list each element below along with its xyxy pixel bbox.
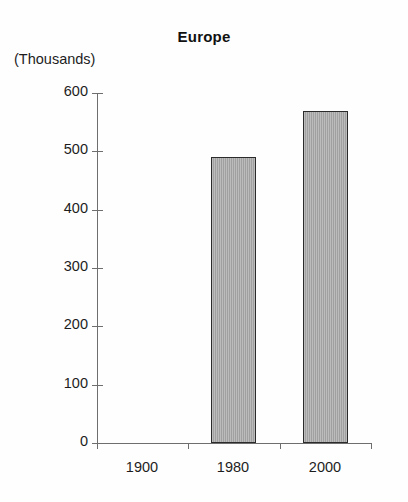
bar-2000[interactable] — [303, 111, 348, 444]
x-category-label-2000: 2000 — [279, 459, 371, 475]
y-tick-label-100: 100 — [64, 375, 88, 391]
y-tick-500: 500 — [97, 151, 98, 152]
bar-1980[interactable] — [211, 157, 256, 443]
chart-title: Europe — [0, 28, 408, 45]
y-tick-label-0: 0 — [80, 433, 88, 449]
y-tick-300: 300 — [97, 268, 98, 269]
y-tick-label-200: 200 — [64, 316, 88, 332]
y-tick-label-500: 500 — [64, 141, 88, 157]
x-category-label-1900: 1900 — [96, 459, 188, 475]
x-category-label-1980: 1980 — [187, 459, 279, 475]
bar-chart: Europe (Thousands) 600 500 400 300 200 1… — [0, 0, 408, 502]
y-tick-400: 400 — [97, 210, 98, 211]
x-tick-2 — [280, 443, 281, 449]
y-tick-label-400: 400 — [64, 200, 88, 216]
x-tick-end — [371, 443, 372, 449]
x-tick-start — [97, 443, 98, 449]
y-tick-label-300: 300 — [64, 258, 88, 274]
plot-area: 600 500 400 300 200 100 0 — [97, 93, 372, 443]
y-tick-200: 200 — [97, 326, 98, 327]
y-axis-unit-label: (Thousands) — [14, 51, 95, 67]
y-tick-label-600: 600 — [64, 83, 88, 99]
x-axis-line — [97, 443, 372, 444]
y-tick-600: 600 — [97, 93, 98, 94]
y-tick-100: 100 — [97, 385, 98, 386]
x-tick-1 — [188, 443, 189, 449]
